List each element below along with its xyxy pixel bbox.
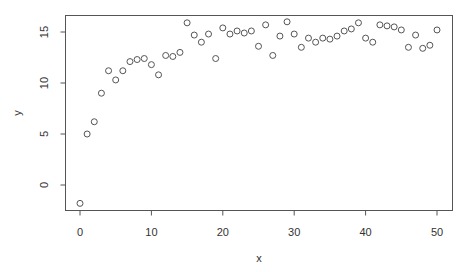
data-point <box>98 90 104 96</box>
data-point <box>127 59 133 65</box>
data-point <box>291 31 297 37</box>
data-point <box>156 72 162 78</box>
data-point <box>298 44 304 50</box>
x-tick-label: 0 <box>77 226 83 238</box>
data-point <box>184 20 190 26</box>
data-point <box>284 19 290 25</box>
data-point <box>77 200 83 206</box>
data-point <box>327 36 333 42</box>
data-point <box>405 44 411 50</box>
y-tick-label: 15 <box>38 26 50 38</box>
y-tick-label: 10 <box>38 77 50 89</box>
scatter-plot: 01020304050 051015 x y <box>0 0 464 272</box>
plot-frame <box>66 16 453 211</box>
data-point <box>134 57 140 63</box>
x-tick-label: 10 <box>145 226 157 238</box>
data-point <box>213 56 219 62</box>
data-point <box>427 42 433 48</box>
data-point <box>370 39 376 45</box>
data-point <box>263 22 269 28</box>
data-point <box>141 56 147 62</box>
data-point <box>413 32 419 38</box>
y-axis: 051015 <box>38 26 66 188</box>
x-tick-label: 20 <box>217 226 229 238</box>
data-point <box>163 52 169 58</box>
x-tick-label: 30 <box>288 226 300 238</box>
data-point <box>377 22 383 28</box>
data-point <box>177 49 183 55</box>
data-point <box>434 27 440 33</box>
data-point <box>256 43 262 49</box>
data-point <box>398 27 404 33</box>
data-point <box>248 28 254 34</box>
x-tick-label: 40 <box>359 226 371 238</box>
data-point <box>420 45 426 51</box>
data-point <box>91 119 97 125</box>
data-point <box>320 35 326 41</box>
data-point <box>113 77 119 83</box>
x-axis-title: x <box>256 252 262 264</box>
data-point <box>348 26 354 32</box>
data-point <box>270 52 276 58</box>
data-point <box>334 33 340 39</box>
data-point <box>120 68 126 74</box>
data-point <box>227 31 233 37</box>
x-tick-label: 50 <box>431 226 443 238</box>
data-point <box>363 35 369 41</box>
data-point <box>241 30 247 36</box>
y-axis-title: y <box>11 110 23 116</box>
data-point <box>198 39 204 45</box>
data-point <box>277 33 283 39</box>
data-point <box>220 25 226 31</box>
data-point <box>170 53 176 59</box>
data-point <box>305 35 311 41</box>
data-point <box>355 20 361 26</box>
data-point <box>84 131 90 137</box>
data-point <box>341 28 347 34</box>
data-points <box>77 19 440 207</box>
data-point <box>313 39 319 45</box>
data-point <box>384 23 390 29</box>
data-point <box>391 24 397 30</box>
data-point <box>191 32 197 38</box>
y-tick-label: 5 <box>38 131 50 137</box>
data-point <box>206 31 212 37</box>
data-point <box>234 28 240 34</box>
x-axis: 01020304050 <box>77 211 443 239</box>
y-tick-label: 0 <box>38 182 50 188</box>
data-point <box>148 62 154 68</box>
data-point <box>106 68 112 74</box>
